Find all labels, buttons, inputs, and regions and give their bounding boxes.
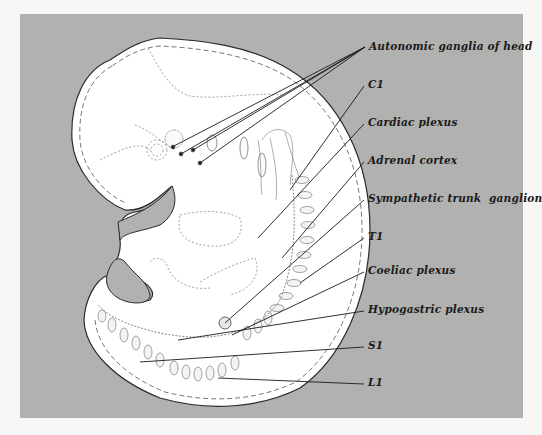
label-hypogastric-plexus: Hypogastric plexus [368, 303, 484, 315]
label-coeliac-plexus: Coeliac plexus [368, 264, 456, 276]
label-t1: T1 [368, 230, 384, 242]
label-s1: S1 [368, 339, 383, 351]
embryo-outline [72, 38, 370, 406]
label-c1: C1 [368, 78, 384, 90]
label-autonomic-ganglia-of-head: Autonomic ganglia of head [369, 40, 533, 52]
label-l1: L1 [368, 376, 383, 388]
label-sympathetic-trunk-ganglion: Sympathetic trunk ganglion [368, 192, 542, 204]
label-adrenal-cortex: Adrenal cortex [368, 154, 457, 166]
label-cardiac-plexus: Cardiac plexus [368, 116, 458, 128]
